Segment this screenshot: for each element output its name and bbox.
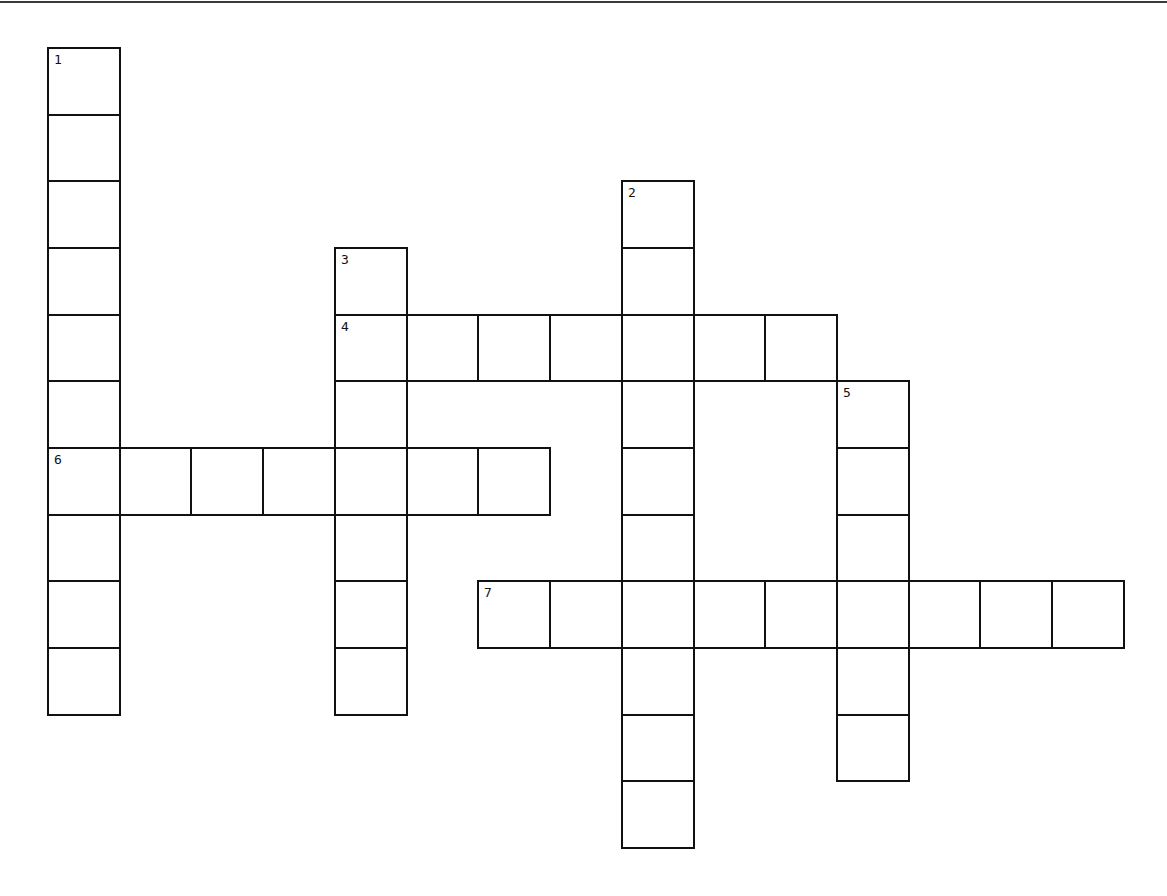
crossword-cell[interactable]: 3 — [334, 247, 408, 316]
crossword-cell[interactable] — [477, 314, 551, 382]
crossword-cell[interactable] — [621, 647, 695, 716]
crossword-cell[interactable] — [693, 580, 766, 649]
letter-input[interactable] — [623, 182, 693, 247]
letter-input[interactable] — [910, 582, 979, 647]
crossword-cell[interactable]: 5 — [836, 380, 910, 449]
crossword-cell[interactable] — [334, 647, 408, 716]
crossword-cell[interactable]: 6 — [47, 447, 121, 516]
crossword-cell[interactable] — [836, 714, 910, 782]
crossword-cell[interactable] — [621, 714, 695, 782]
letter-input[interactable] — [551, 316, 621, 380]
letter-input[interactable] — [838, 649, 908, 714]
letter-input[interactable] — [336, 316, 406, 380]
crossword-cell[interactable] — [621, 247, 695, 316]
crossword-cell[interactable] — [47, 380, 121, 449]
crossword-cell[interactable] — [836, 514, 910, 582]
crossword-cell[interactable] — [836, 647, 910, 716]
letter-input[interactable] — [49, 182, 119, 247]
crossword-cell[interactable]: 1 — [47, 47, 121, 116]
letter-input[interactable] — [838, 382, 908, 447]
crossword-cell[interactable]: 4 — [334, 314, 408, 382]
letter-input[interactable] — [336, 382, 406, 447]
crossword-cell[interactable] — [47, 180, 121, 249]
crossword-cell[interactable] — [979, 580, 1053, 649]
crossword-cell[interactable] — [47, 514, 121, 582]
crossword-cell[interactable] — [47, 114, 121, 182]
letter-input[interactable] — [336, 582, 406, 647]
letter-input[interactable] — [838, 516, 908, 580]
letter-input[interactable] — [264, 449, 334, 514]
crossword-cell[interactable] — [190, 447, 264, 516]
letter-input[interactable] — [838, 449, 908, 514]
letter-input[interactable] — [623, 649, 693, 714]
crossword-cell[interactable]: 2 — [621, 180, 695, 249]
letter-input[interactable] — [408, 449, 477, 514]
letter-input[interactable] — [551, 582, 621, 647]
crossword-cell[interactable] — [47, 247, 121, 316]
letter-input[interactable] — [336, 249, 406, 314]
crossword-cell[interactable] — [334, 380, 408, 449]
letter-input[interactable] — [623, 316, 693, 380]
letter-input[interactable] — [49, 649, 119, 714]
crossword-cell[interactable] — [621, 580, 695, 649]
letter-input[interactable] — [695, 582, 764, 647]
crossword-cell[interactable] — [621, 780, 695, 849]
letter-input[interactable] — [623, 382, 693, 447]
letter-input[interactable] — [1053, 582, 1123, 647]
crossword-cell[interactable] — [549, 580, 623, 649]
crossword-cell[interactable] — [119, 447, 192, 516]
letter-input[interactable] — [336, 516, 406, 580]
crossword-cell[interactable] — [764, 580, 838, 649]
crossword-cell[interactable] — [47, 314, 121, 382]
crossword-cell[interactable] — [334, 514, 408, 582]
letter-input[interactable] — [838, 582, 908, 647]
crossword-cell[interactable] — [47, 580, 121, 649]
crossword-cell[interactable] — [764, 314, 838, 382]
crossword-cell[interactable] — [262, 447, 336, 516]
letter-input[interactable] — [408, 316, 477, 380]
letter-input[interactable] — [49, 249, 119, 314]
letter-input[interactable] — [336, 449, 406, 514]
letter-input[interactable] — [121, 449, 190, 514]
letter-input[interactable] — [49, 516, 119, 580]
crossword-cell[interactable] — [334, 580, 408, 649]
letter-input[interactable] — [336, 649, 406, 714]
crossword-cell[interactable] — [621, 380, 695, 449]
crossword-cell[interactable] — [621, 314, 695, 382]
letter-input[interactable] — [623, 249, 693, 314]
letter-input[interactable] — [479, 316, 549, 380]
crossword-cell[interactable] — [47, 647, 121, 716]
letter-input[interactable] — [623, 516, 693, 580]
letter-input[interactable] — [479, 582, 549, 647]
letter-input[interactable] — [623, 716, 693, 780]
letter-input[interactable] — [766, 582, 836, 647]
crossword-cell[interactable] — [908, 580, 981, 649]
crossword-cell[interactable] — [477, 447, 551, 516]
crossword-cell[interactable] — [836, 580, 910, 649]
letter-input[interactable] — [623, 782, 693, 847]
letter-input[interactable] — [623, 449, 693, 514]
crossword-cell[interactable] — [621, 447, 695, 516]
letter-input[interactable] — [49, 116, 119, 180]
crossword-cell[interactable] — [1051, 580, 1125, 649]
letter-input[interactable] — [49, 316, 119, 380]
letter-input[interactable] — [981, 582, 1051, 647]
crossword-cell[interactable] — [549, 314, 623, 382]
letter-input[interactable] — [49, 449, 119, 514]
crossword-cell[interactable] — [836, 447, 910, 516]
letter-input[interactable] — [766, 316, 836, 380]
crossword-cell[interactable]: 7 — [477, 580, 551, 649]
crossword-cell[interactable] — [406, 447, 479, 516]
letter-input[interactable] — [49, 49, 119, 114]
crossword-cell[interactable] — [693, 314, 766, 382]
letter-input[interactable] — [623, 582, 693, 647]
letter-input[interactable] — [479, 449, 549, 514]
crossword-cell[interactable] — [621, 514, 695, 582]
letter-input[interactable] — [49, 582, 119, 647]
letter-input[interactable] — [838, 716, 908, 780]
crossword-cell[interactable] — [406, 314, 479, 382]
letter-input[interactable] — [49, 382, 119, 447]
letter-input[interactable] — [192, 449, 262, 514]
crossword-cell[interactable] — [334, 447, 408, 516]
letter-input[interactable] — [695, 316, 764, 380]
